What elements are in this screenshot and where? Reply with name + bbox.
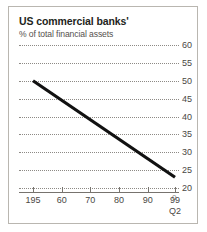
y-axis-tick-label: 20	[182, 183, 192, 193]
data-series-line	[19, 45, 179, 188]
x-axis-tick	[33, 187, 34, 192]
gridline	[19, 188, 179, 189]
x-axis-tick	[90, 187, 91, 192]
plot-area: 605550454035302520	[19, 45, 179, 188]
y-axis-tick-label: 45	[182, 94, 192, 104]
x-axis-tick-label: 90	[143, 195, 153, 205]
y-axis-tick-label: 50	[182, 76, 192, 86]
chart-card: US commercial banks' % of total financia…	[8, 6, 198, 224]
y-axis-tick-label: 35	[182, 129, 192, 139]
x-axis-tick	[62, 187, 63, 192]
x-axis-tick-label: 195	[25, 195, 40, 205]
y-axis-tick-label: 55	[182, 58, 192, 68]
chart-title: US commercial banks'	[19, 15, 129, 27]
chart-subtitle: % of total financial assets	[19, 29, 113, 39]
x-axis-tick-label: 99	[170, 195, 180, 205]
x-axis-tick	[175, 187, 176, 192]
x-axis-tick-label: 70	[85, 195, 95, 205]
y-axis-tick-label: 40	[182, 112, 192, 122]
x-axis-tick-label: 80	[114, 195, 124, 205]
series-line-segment	[33, 81, 175, 178]
y-axis-tick-label: 25	[182, 165, 192, 175]
x-axis-tick	[119, 187, 120, 192]
y-axis-tick-label: 60	[182, 40, 192, 50]
x-axis-line	[19, 192, 179, 193]
y-axis-tick-label: 30	[182, 147, 192, 157]
x-axis-tick-sublabel: Q2	[169, 206, 181, 216]
x-axis-tick	[148, 187, 149, 192]
x-axis-tick-label: 60	[57, 195, 67, 205]
